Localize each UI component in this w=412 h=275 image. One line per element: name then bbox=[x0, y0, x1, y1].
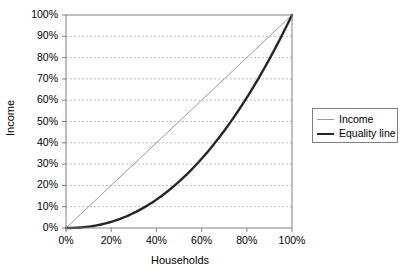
x-tick-label: 0% bbox=[43, 234, 89, 246]
lorenz-curve-chart: 0%10%20%30%40%50%60%70%80%90%100% 0%20%4… bbox=[0, 0, 412, 275]
legend-label-income: Income bbox=[339, 113, 373, 125]
legend-item-equality-line: Equality line bbox=[317, 126, 393, 140]
y-tick-label: 50% bbox=[14, 115, 58, 127]
y-tick-label: 90% bbox=[14, 29, 58, 41]
x-tick-label: 80% bbox=[224, 234, 270, 246]
y-tick-label: 70% bbox=[14, 72, 58, 84]
y-tick-label: 80% bbox=[14, 51, 58, 63]
x-tick-label: 20% bbox=[88, 234, 134, 246]
y-tick-label: 60% bbox=[14, 93, 58, 105]
chart-legend: Income Equality line bbox=[312, 108, 398, 143]
x-tick-label: 60% bbox=[179, 234, 225, 246]
y-tick-label: 20% bbox=[14, 178, 58, 190]
x-tick-label: 40% bbox=[133, 234, 179, 246]
legend-label-equality-line: Equality line bbox=[339, 127, 396, 139]
y-tick-label: 30% bbox=[14, 157, 58, 169]
x-tick-label: 100% bbox=[269, 234, 315, 246]
y-tick-label: 0% bbox=[14, 221, 58, 233]
y-tick-label: 100% bbox=[14, 8, 58, 20]
y-tick-label: 10% bbox=[14, 200, 58, 212]
legend-swatch-income bbox=[317, 116, 334, 123]
y-tick-label: 40% bbox=[14, 136, 58, 148]
y-axis-title: Income bbox=[4, 78, 16, 158]
legend-item-income: Income bbox=[317, 112, 393, 126]
legend-swatch-equality-line bbox=[317, 130, 334, 137]
x-axis-title: Households bbox=[0, 254, 360, 266]
